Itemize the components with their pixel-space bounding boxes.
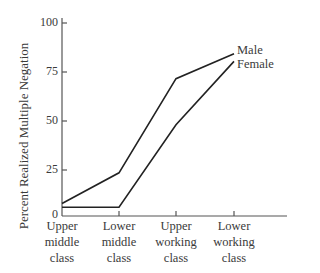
x-axis: [62, 211, 287, 216]
x-category-lower-middle: Lower middle class: [89, 218, 149, 266]
x-category-upper-middle: Upper middle class: [32, 218, 92, 266]
y-tick-75: 75: [28, 64, 58, 79]
y-axis: [62, 18, 67, 216]
y-tick-50: 50: [28, 113, 58, 128]
female-series-line: [62, 61, 234, 207]
y-tick-100: 100: [28, 15, 58, 30]
x-category-lower-working: Lower working class: [204, 218, 264, 266]
male-series-line: [62, 54, 234, 204]
x-category-upper-working: Upper working class: [146, 218, 206, 266]
legend-female: Female: [237, 57, 274, 72]
legend-male: Male: [237, 43, 263, 58]
y-tick-25: 25: [28, 162, 58, 177]
